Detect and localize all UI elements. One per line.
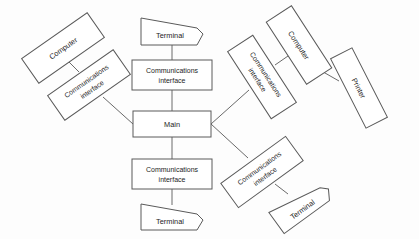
node-main-label: Main [164,120,180,129]
node-terminal-bottom[interactable]: Terminal [141,204,203,230]
node-comm-bottom-label-line2: interface [159,176,186,183]
comm-interface-shape [132,159,212,189]
network-topology-diagram: Terminal Communications interface Main C… [0,0,419,239]
comm-interface-shape [221,136,303,207]
node-comm-top-label-line2: interface [159,77,186,84]
node-comm-bottom[interactable]: Communications interface [132,159,212,189]
node-terminal-top-label: Terminal [156,31,184,40]
edge-comm-lower-right-to-terminal-lower-right [275,184,288,194]
edge-main-to-comm-left [103,97,133,124]
edge-main-to-comm-upper-right [211,90,249,124]
diagram-canvas: Terminal Communications interface Main C… [0,0,419,239]
node-terminal-top[interactable]: Terminal [141,18,203,45]
node-comm-top[interactable]: Communications interface [132,60,212,90]
edge-comm-upper-right-to-computer-right [275,56,288,65]
node-comm-lower-right[interactable]: Communications interface [221,136,303,207]
edge-main-to-comm-lower-right [211,124,248,158]
comm-interface-shape [132,60,212,90]
node-terminal-lower-right[interactable]: Terminal [269,176,334,233]
edge-comm-left-to-computer-left [68,61,79,72]
node-main[interactable]: Main [133,111,211,137]
node-terminal-bottom-label: Terminal [156,217,184,226]
node-comm-bottom-label-line1: Communications [146,166,199,173]
node-comm-top-label-line1: Communications [146,67,199,74]
node-printer-right[interactable]: Printer [331,48,388,128]
